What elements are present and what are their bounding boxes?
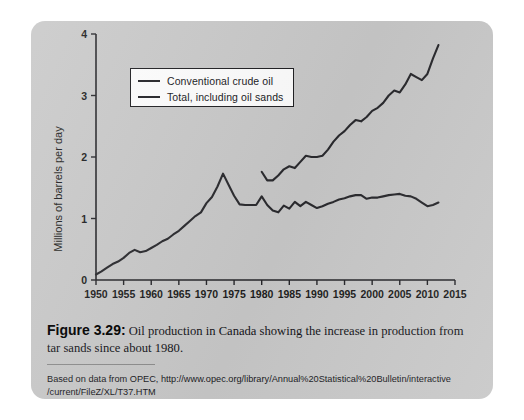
series-total-including-oil-sands <box>262 45 439 180</box>
y-axis-label: Millions of barrels per day <box>52 126 64 252</box>
figure-caption: Figure 3.29: Oil production in Canada sh… <box>47 321 479 356</box>
x-tick-label: 1995 <box>333 288 357 300</box>
y-tick-label: 2 <box>81 151 87 163</box>
x-tick-label: 1980 <box>250 288 274 300</box>
legend-label: Conventional crude oil <box>167 75 273 87</box>
caption-divider <box>47 364 155 365</box>
source-line-1: Based on data from OPEC, http://www.opec… <box>47 374 451 384</box>
x-tick-label: 1985 <box>278 288 302 300</box>
x-tick-label: 1950 <box>84 288 108 300</box>
x-tick-label: 2005 <box>388 288 412 300</box>
legend-line-icon <box>138 96 160 98</box>
chart-legend: Conventional crude oil Total, including … <box>130 68 294 107</box>
x-tick-label: 2010 <box>416 288 440 300</box>
figure-page: Millions of barrels per day 01234 195019… <box>0 0 524 420</box>
figure-number: Figure 3.29: <box>47 322 126 338</box>
y-tick-label: 3 <box>81 90 87 102</box>
chart-plot-area: Millions of barrels per day 01234 195019… <box>31 21 493 311</box>
x-tick-label: 1975 <box>222 288 246 300</box>
source-line-2: /current/FileZ/XL/T37.HTM <box>47 387 156 397</box>
x-tick-label: 1960 <box>140 288 164 300</box>
x-tick-label: 1955 <box>112 288 136 300</box>
legend-line-icon <box>138 80 160 82</box>
figure-source: Based on data from OPEC, http://www.opec… <box>47 373 483 400</box>
y-tick-label: 4 <box>81 28 87 40</box>
legend-item-total-including-oil-sands: Total, including oil sands <box>138 89 287 105</box>
line-chart: Millions of barrels per day 01234 195019… <box>31 21 493 311</box>
x-tick-label: 1970 <box>195 288 219 300</box>
x-axis-ticks: 1950195519601965197019751980198519901995… <box>84 280 467 300</box>
legend-item-conventional-crude-oil: Conventional crude oil <box>138 73 287 89</box>
y-tick-label: 0 <box>81 274 87 286</box>
x-tick-label: 2000 <box>360 288 384 300</box>
figure-card: Millions of barrels per day 01234 195019… <box>31 21 493 399</box>
legend-label: Total, including oil sands <box>167 91 283 103</box>
series-conventional-crude-oil <box>96 174 438 275</box>
y-axis-ticks: 01234 <box>81 28 96 286</box>
x-tick-label: 1990 <box>305 288 329 300</box>
x-tick-label: 2015 <box>443 288 467 300</box>
x-tick-label: 1965 <box>167 288 191 300</box>
y-tick-label: 1 <box>81 213 87 225</box>
